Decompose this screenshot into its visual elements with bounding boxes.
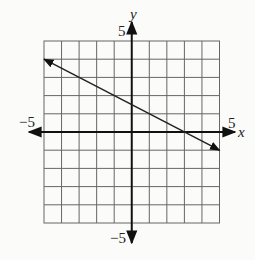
x-max-label: 5: [228, 115, 236, 131]
coordinate-plane: y 5 −5 −5 5 x: [0, 0, 255, 260]
x-min-label: −5: [19, 114, 35, 130]
y-min-label: −5: [110, 230, 126, 246]
x-axis-label: x: [237, 124, 245, 140]
y-axis-label: y: [128, 6, 137, 22]
y-max-label: 5: [118, 23, 126, 39]
